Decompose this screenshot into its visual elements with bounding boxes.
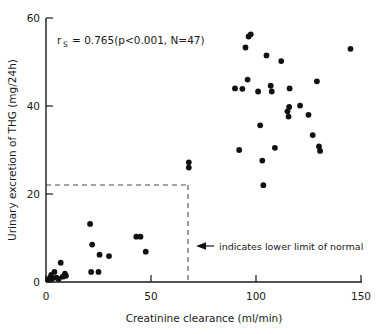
reference-lines-group xyxy=(46,185,188,282)
data-point xyxy=(96,269,102,275)
data-point xyxy=(268,83,274,89)
y-tick-label-20: 20 xyxy=(27,188,40,200)
data-point xyxy=(278,58,284,64)
data-point xyxy=(106,253,112,259)
y-tick-labels: 60 40 20 0 xyxy=(27,12,40,288)
data-point xyxy=(286,104,292,110)
statistic-subscript: S xyxy=(63,40,68,49)
data-point xyxy=(269,89,275,95)
data-point xyxy=(245,77,251,83)
left-arrow-icon xyxy=(196,242,206,250)
x-tick-label-50: 50 xyxy=(144,290,157,302)
data-point xyxy=(88,269,94,275)
statistic-annotation: r S = 0.765(p<0.001, N=47) xyxy=(57,34,205,49)
data-point xyxy=(143,249,149,255)
x-tick-label-0: 0 xyxy=(43,290,50,302)
data-point xyxy=(260,182,266,188)
y-tick-label-40: 40 xyxy=(27,100,40,112)
y-tick-label-60: 60 xyxy=(27,12,40,24)
data-point xyxy=(314,78,320,84)
data-point xyxy=(272,145,278,151)
data-point xyxy=(317,148,323,154)
data-point xyxy=(297,103,303,109)
data-point xyxy=(306,112,312,118)
statistic-value: = 0.765(p<0.001, N=47) xyxy=(72,34,205,46)
data-point xyxy=(58,260,64,266)
data-point xyxy=(286,114,292,120)
data-point xyxy=(87,221,93,227)
data-point xyxy=(287,86,293,92)
data-point xyxy=(243,45,249,51)
data-point xyxy=(248,31,254,37)
data-point xyxy=(259,158,265,164)
data-point xyxy=(63,273,69,279)
data-point xyxy=(186,165,192,171)
x-tick-label-100: 100 xyxy=(246,290,266,302)
x-tick-labels: 0 50 100 150 xyxy=(43,290,371,302)
lower-limit-callout: indicates lower limit of normal xyxy=(196,241,363,252)
x-tick-label-150: 150 xyxy=(351,290,371,302)
statistic-symbol: r xyxy=(57,34,62,46)
data-point xyxy=(138,234,144,240)
data-point xyxy=(52,269,58,275)
x-axis-title: Creatinine clearance (ml/min) xyxy=(126,312,283,324)
data-point xyxy=(97,252,103,258)
y-axis-title: Urinary excretion of THG (mg/24h) xyxy=(6,59,18,241)
data-point xyxy=(236,147,242,153)
lower-limit-note-text: indicates lower limit of normal xyxy=(219,241,363,252)
x-tick-group xyxy=(46,275,361,282)
data-point xyxy=(186,159,192,165)
data-point xyxy=(239,86,245,92)
data-point xyxy=(232,86,238,92)
data-point xyxy=(255,89,261,95)
data-point xyxy=(348,46,354,52)
data-point xyxy=(89,242,95,248)
y-tick-label-0: 0 xyxy=(33,276,40,288)
data-point xyxy=(264,53,270,59)
chart-canvas: 60 40 20 0 0 50 100 150 Creatinine clear… xyxy=(0,0,386,334)
data-point xyxy=(257,122,263,128)
scatter-plot-figure: 60 40 20 0 0 50 100 150 Creatinine clear… xyxy=(0,0,386,334)
y-tick-group xyxy=(46,18,53,282)
data-point xyxy=(310,132,316,138)
